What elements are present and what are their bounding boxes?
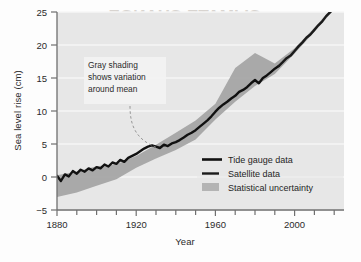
y-axis-ticks [51, 12, 57, 210]
legend-label-satellite: Satellite data [228, 169, 280, 179]
y-tick-label-4: 15 [36, 73, 47, 84]
y-tick-label-0: −5 [36, 205, 47, 216]
legend-swatch-uncertainty [202, 183, 219, 191]
y-tick-label-6: 25 [36, 7, 47, 18]
legend-label-uncertainty: Statistical uncertainty [228, 183, 314, 193]
legend-label-tide-gauge: Tide gauge data [228, 155, 293, 165]
annotation-line-3: around mean [88, 84, 138, 94]
y-tick-label-3: 10 [36, 106, 47, 117]
y-tick-label-1: 0 [42, 172, 47, 183]
annotation-line-1: Gray shading [88, 60, 138, 70]
y-axis-title: Sea level rise (cm) [12, 61, 23, 161]
x-tick-label-1920: 1920 [126, 219, 147, 230]
x-axis-tick-labels: 1880 1920 1960 2000 [46, 219, 305, 230]
figure-container: CLIMATE CHANGE [0, 0, 361, 262]
x-axis-ticks [57, 210, 334, 216]
y-tick-label-2: 5 [42, 139, 47, 150]
x-tick-label-2000: 2000 [284, 219, 305, 230]
x-tick-label-1960: 1960 [205, 219, 226, 230]
y-tick-label-5: 20 [36, 40, 47, 51]
x-tick-label-1880: 1880 [46, 219, 67, 230]
gray-shading-annotation: Gray shading shows variation around mean [84, 57, 166, 104]
annotation-line-2: shows variation [88, 72, 146, 82]
x-axis-title: Year [150, 236, 220, 247]
chart-legend: Tide gauge data Satellite data Statistic… [197, 150, 343, 194]
y-axis-tick-labels: −5 0 5 10 15 20 25 [36, 7, 47, 216]
sea-level-rise-chart: Gray shading shows variation around mean… [0, 0, 361, 262]
